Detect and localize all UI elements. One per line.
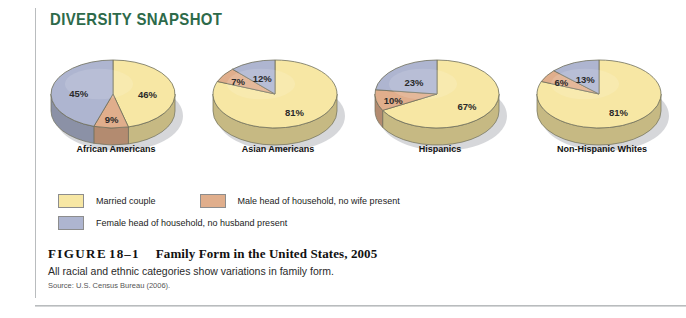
pie-category-label: African Americans	[36, 144, 196, 154]
legend-item-female-head: Female head of household, no husband pre…	[58, 216, 287, 230]
page-title: DIVERSITY SNAPSHOT	[50, 10, 222, 30]
bottom-rule	[35, 305, 686, 307]
pie-chart-non-hispanic-whites: 81%6%13%Non-Hispanic Whites	[522, 36, 682, 162]
slice-percent-label: 46%	[138, 89, 158, 100]
legend-row-1: Married couple Male head of household, n…	[58, 190, 618, 212]
slice-percent-label: 10%	[384, 95, 404, 106]
legend-swatch-married-couple	[58, 194, 84, 208]
slice-percent-label: 23%	[405, 77, 425, 88]
caption-source: Source: U.S. Census Bureau (2006).	[48, 281, 648, 290]
pie-category-label: Hispanics	[360, 144, 520, 154]
caption-heading: FIGURE18–1Family Form in the United Stat…	[48, 246, 648, 262]
legend-label-female-head: Female head of household, no husband pre…	[96, 218, 287, 228]
caption-subtitle: All racial and ethnic categories show va…	[48, 265, 648, 277]
slice-percent-label: 7%	[231, 76, 245, 87]
pie-category-label: Asian Americans	[198, 144, 358, 154]
legend-swatch-male-head	[200, 194, 226, 208]
legend-item-male-head: Male head of household, no wife present	[200, 194, 400, 208]
pie-chart-african-americans: 46%9%45%African Americans	[36, 36, 196, 162]
slice-percent-label: 81%	[285, 107, 305, 118]
figure-caption: FIGURE18–1Family Form in the United Stat…	[48, 246, 648, 290]
slice-percent-label: 13%	[576, 74, 596, 85]
caption-figure-number: 18–1	[109, 246, 140, 261]
slice-percent-label: 9%	[105, 114, 119, 125]
slice-percent-label: 6%	[554, 77, 568, 88]
caption-figure-word: FIGURE	[48, 246, 107, 261]
legend-swatch-female-head	[58, 216, 84, 230]
pie-chart-asian-americans: 81%7%12%Asian Americans	[198, 36, 358, 162]
slice-percent-label: 81%	[609, 107, 629, 118]
pie-chart-group: 46%9%45%African Americans81%7%12%Asian A…	[36, 36, 682, 162]
figure-container: DIVERSITY SNAPSHOT 46%9%45%African Ameri…	[0, 0, 686, 318]
caption-figure-title: Family Form in the United States, 2005	[156, 246, 378, 261]
legend-label-married-couple: Married couple	[96, 196, 156, 206]
pie-category-label: Non-Hispanic Whites	[522, 144, 682, 154]
pie-chart-hispanics: 67%10%23%Hispanics	[360, 36, 520, 162]
slice-percent-label: 67%	[457, 101, 477, 112]
legend-label-male-head: Male head of household, no wife present	[238, 196, 400, 206]
legend: Married couple Male head of household, n…	[58, 190, 618, 234]
slice-percent-label: 45%	[69, 88, 89, 99]
legend-row-2: Female head of household, no husband pre…	[58, 212, 618, 234]
slice-percent-label: 12%	[253, 73, 273, 84]
legend-item-married-couple: Married couple	[58, 194, 156, 208]
